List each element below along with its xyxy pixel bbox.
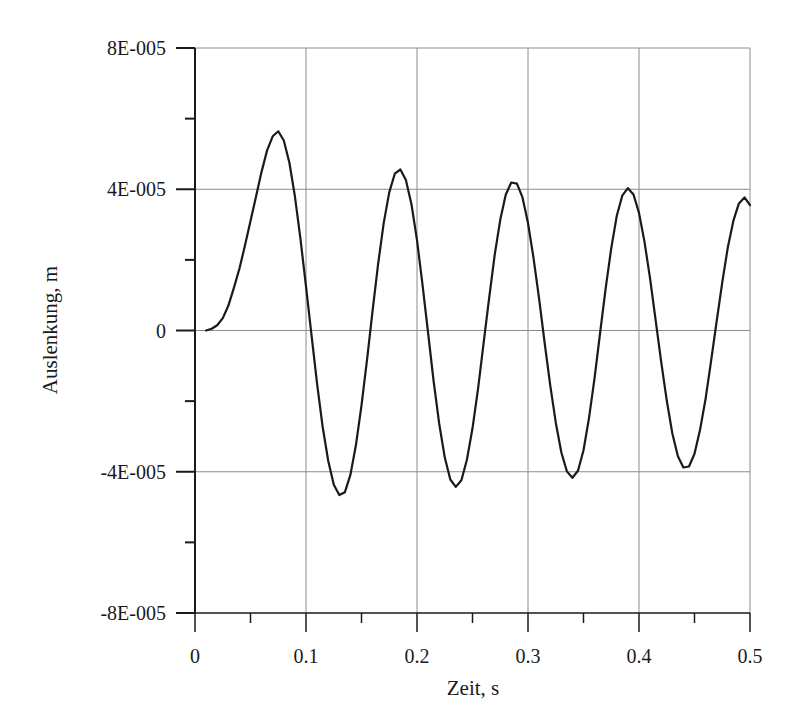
y-tick-label: -8E-005 <box>100 602 166 624</box>
x-axis-title: Zeit, s <box>447 676 500 700</box>
x-tick-label: 0.4 <box>627 645 652 667</box>
plot-area <box>206 131 750 495</box>
series-line-auslenkung <box>206 131 750 495</box>
y-tick-label: -4E-005 <box>100 461 166 483</box>
x-tick-label: 0.5 <box>738 645 763 667</box>
axes <box>176 48 750 632</box>
y-tick-label: 4E-005 <box>107 178 166 200</box>
x-tick-label: 0 <box>190 645 200 667</box>
y-axis-title: Auslenkung, m <box>38 266 62 394</box>
y-tick-label: 8E-005 <box>107 37 166 59</box>
chart: 00.10.20.30.40.5-8E-005-4E-00504E-0058E-… <box>0 0 802 727</box>
x-tick-label: 0.2 <box>405 645 430 667</box>
tick-labels: 00.10.20.30.40.5-8E-005-4E-00504E-0058E-… <box>100 37 762 667</box>
x-tick-label: 0.3 <box>516 645 541 667</box>
x-tick-label: 0.1 <box>294 645 319 667</box>
y-tick-label: 0 <box>156 320 166 342</box>
